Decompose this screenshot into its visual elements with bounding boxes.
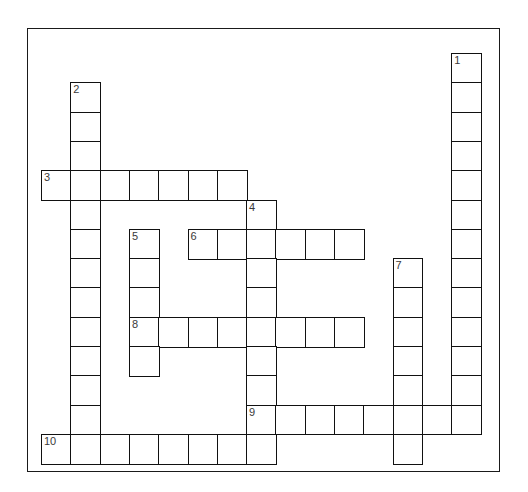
cell-number-10: 10 bbox=[44, 435, 56, 447]
crossword-cell[interactable] bbox=[70, 434, 101, 465]
crossword-cell[interactable] bbox=[70, 405, 101, 436]
crossword-cell[interactable] bbox=[393, 346, 424, 377]
crossword-cell[interactable] bbox=[129, 170, 160, 201]
crossword-cell[interactable] bbox=[275, 317, 306, 348]
crossword-cell[interactable] bbox=[188, 170, 219, 201]
crossword-cell[interactable] bbox=[188, 317, 219, 348]
crossword-cell[interactable]: 3 bbox=[41, 170, 72, 201]
crossword-cell[interactable]: 10 bbox=[41, 434, 72, 465]
crossword-cell[interactable] bbox=[70, 229, 101, 260]
crossword-cell[interactable] bbox=[451, 405, 482, 436]
crossword-cell[interactable] bbox=[451, 200, 482, 231]
crossword-cell[interactable] bbox=[305, 405, 336, 436]
crossword-cell[interactable] bbox=[451, 141, 482, 172]
crossword-cell[interactable] bbox=[246, 258, 277, 289]
crossword-cell[interactable] bbox=[70, 346, 101, 377]
crossword-cell[interactable] bbox=[393, 375, 424, 406]
crossword-cell[interactable] bbox=[363, 405, 394, 436]
crossword-cell[interactable] bbox=[246, 287, 277, 318]
crossword-cell[interactable] bbox=[129, 258, 160, 289]
crossword-cell[interactable] bbox=[305, 317, 336, 348]
cell-number-1: 1 bbox=[454, 54, 460, 66]
crossword-cell[interactable] bbox=[217, 170, 248, 201]
cell-number-3: 3 bbox=[44, 171, 50, 183]
crossword-cell[interactable] bbox=[158, 317, 189, 348]
crossword-cell[interactable] bbox=[70, 375, 101, 406]
crossword-cell[interactable] bbox=[334, 229, 365, 260]
crossword-cell[interactable] bbox=[70, 200, 101, 231]
crossword-cell[interactable]: 6 bbox=[188, 229, 219, 260]
crossword-cell[interactable] bbox=[129, 287, 160, 318]
crossword-cell[interactable] bbox=[422, 405, 453, 436]
cell-number-6: 6 bbox=[191, 230, 197, 242]
crossword-cell[interactable]: 5 bbox=[129, 229, 160, 260]
crossword-cell[interactable] bbox=[393, 405, 424, 436]
crossword-cell[interactable] bbox=[70, 287, 101, 318]
crossword-cell[interactable] bbox=[246, 317, 277, 348]
crossword-cell[interactable] bbox=[129, 434, 160, 465]
crossword-cell[interactable] bbox=[217, 229, 248, 260]
crossword-cell[interactable] bbox=[158, 170, 189, 201]
crossword-cell[interactable] bbox=[246, 434, 277, 465]
cell-number-4: 4 bbox=[249, 201, 255, 213]
crossword-cell[interactable] bbox=[393, 317, 424, 348]
crossword-cell[interactable] bbox=[451, 82, 482, 113]
crossword-cell[interactable] bbox=[451, 170, 482, 201]
cell-number-7: 7 bbox=[396, 259, 402, 271]
crossword-cell[interactable] bbox=[334, 317, 365, 348]
crossword-cell[interactable] bbox=[70, 258, 101, 289]
crossword-cell[interactable] bbox=[451, 287, 482, 318]
crossword-cell[interactable]: 9 bbox=[246, 405, 277, 436]
crossword-cell[interactable] bbox=[451, 258, 482, 289]
crossword-cell[interactable] bbox=[334, 405, 365, 436]
crossword-cell[interactable] bbox=[129, 346, 160, 377]
crossword-cell[interactable] bbox=[70, 141, 101, 172]
crossword-cell[interactable] bbox=[305, 229, 336, 260]
crossword-cell[interactable] bbox=[70, 317, 101, 348]
crossword-cell[interactable] bbox=[217, 434, 248, 465]
crossword-cell[interactable]: 1 bbox=[451, 53, 482, 84]
crossword-cell[interactable] bbox=[188, 434, 219, 465]
crossword-cell[interactable] bbox=[100, 434, 131, 465]
crossword-cell[interactable] bbox=[393, 434, 424, 465]
crossword-cell[interactable] bbox=[275, 229, 306, 260]
cell-number-9: 9 bbox=[249, 406, 255, 418]
crossword-cell[interactable] bbox=[275, 405, 306, 436]
crossword-cell[interactable] bbox=[100, 170, 131, 201]
crossword-page: 12345678910 bbox=[0, 0, 528, 492]
cell-number-5: 5 bbox=[132, 230, 138, 242]
crossword-grid[interactable]: 12345678910 bbox=[0, 0, 528, 492]
crossword-cell[interactable] bbox=[70, 112, 101, 143]
crossword-cell[interactable] bbox=[217, 317, 248, 348]
crossword-cell[interactable] bbox=[393, 287, 424, 318]
cell-number-8: 8 bbox=[132, 318, 138, 330]
crossword-cell[interactable] bbox=[246, 375, 277, 406]
crossword-cell[interactable] bbox=[246, 346, 277, 377]
cell-number-2: 2 bbox=[73, 83, 79, 95]
crossword-cell[interactable] bbox=[246, 229, 277, 260]
crossword-cell[interactable] bbox=[451, 375, 482, 406]
crossword-cell[interactable]: 7 bbox=[393, 258, 424, 289]
crossword-cell[interactable] bbox=[70, 170, 101, 201]
crossword-cell[interactable] bbox=[451, 112, 482, 143]
crossword-cell[interactable] bbox=[158, 434, 189, 465]
crossword-cell[interactable]: 8 bbox=[129, 317, 160, 348]
crossword-cell[interactable] bbox=[451, 317, 482, 348]
crossword-cell[interactable]: 2 bbox=[70, 82, 101, 113]
crossword-cell[interactable] bbox=[451, 229, 482, 260]
crossword-cell[interactable] bbox=[451, 346, 482, 377]
crossword-cell[interactable]: 4 bbox=[246, 200, 277, 231]
